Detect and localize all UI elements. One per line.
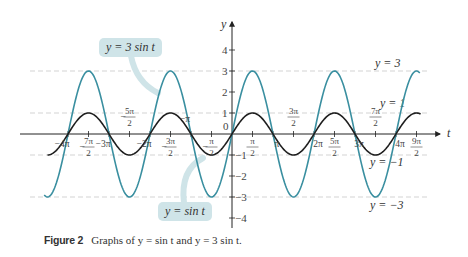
svg-text:3π: 3π	[289, 106, 299, 116]
y-axis-label: y	[220, 17, 227, 31]
y-tick-label: −4	[235, 212, 247, 224]
svg-text:π: π	[209, 136, 214, 146]
svg-text:2: 2	[291, 118, 296, 128]
svg-text:7π: 7π	[84, 136, 94, 146]
figure-caption: Figure 2Graphs of y = sin t and y = 3 si…	[44, 234, 242, 246]
x-tick-label: 9π2	[411, 136, 423, 158]
figure-label: Figure 2	[44, 234, 83, 246]
svg-text:2: 2	[86, 148, 91, 158]
svg-text:2: 2	[209, 148, 214, 158]
y-tick-label: −1	[235, 149, 247, 161]
caption-text: Graphs of y = sin t and y = 3 sin t.	[91, 234, 242, 246]
x-tick-label: π	[275, 139, 280, 149]
bubble-tails	[131, 56, 203, 203]
svg-text:5π: 5π	[330, 136, 340, 146]
x-tick-label: −4π	[55, 139, 70, 149]
x-tick-label: 7π2	[370, 106, 382, 128]
svg-text:2: 2	[127, 118, 132, 128]
svg-text:−: −	[203, 141, 209, 152]
svg-text:9π: 9π	[412, 136, 422, 146]
y-tick-label: 3	[222, 65, 228, 77]
x-tick-label: 2π	[313, 139, 323, 149]
label-three-sin-t: y = 3 sin t	[99, 38, 162, 57]
x-tick-label: −3π	[96, 139, 111, 149]
svg-text:π: π	[250, 136, 255, 146]
bubble-tail	[131, 56, 158, 93]
y-tick-label: 1	[222, 107, 228, 119]
y-tick-label: 4	[222, 44, 228, 56]
bubble-tail	[183, 158, 203, 203]
svg-text:2: 2	[168, 148, 173, 158]
svg-text:2: 2	[332, 148, 337, 158]
reference-line-label: y = 3	[374, 56, 400, 70]
svg-text:3π: 3π	[166, 136, 176, 146]
x-tick-label: 3π2	[288, 106, 300, 128]
y-tick-label: 2	[222, 86, 228, 98]
reference-line-label: y = −3	[369, 198, 404, 212]
svg-text:2: 2	[414, 148, 419, 158]
svg-text:5π: 5π	[125, 106, 135, 116]
label-sin-t: y = sin t	[158, 202, 212, 221]
y-tick-label: −2	[235, 170, 247, 182]
x-tick-label: −π	[180, 114, 190, 124]
x-tick-label: 3π	[354, 139, 364, 149]
x-tick-label: −2π	[137, 139, 152, 149]
y-tick-label: −3	[235, 191, 247, 203]
svg-text:2: 2	[373, 118, 378, 128]
chart-canvas: y = 3y = 1y = −1y = −3 yt−4−3−2−112340−4…	[0, 0, 468, 257]
reference-line-label: y = −1	[369, 155, 404, 169]
x-axis-label: t	[447, 126, 451, 140]
x-tick-label: −5π2	[121, 106, 136, 128]
svg-text:2: 2	[250, 148, 255, 158]
x-tick-label: 4π	[395, 139, 405, 149]
svg-text:7π: 7π	[371, 106, 381, 116]
origin-label: 0	[223, 120, 229, 132]
